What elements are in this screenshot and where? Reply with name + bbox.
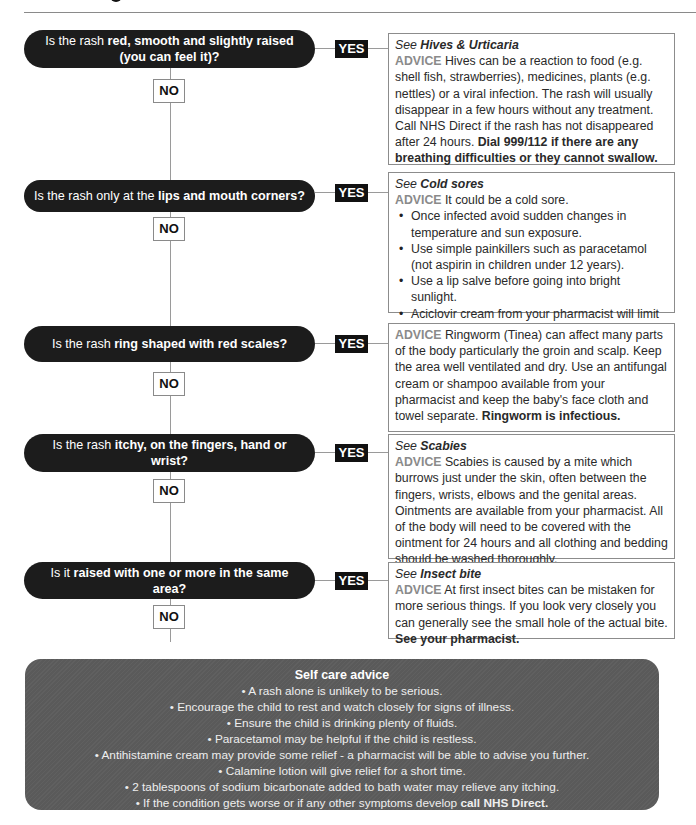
self-care-item: A rash alone is unlikely to be serious. — [25, 683, 659, 699]
yes-label: YES — [335, 444, 368, 462]
question-insect-bite: Is it raised with one or more in the sam… — [24, 562, 315, 599]
no-label: NO — [153, 79, 185, 103]
advice-text: ADVICE At first insect bites can be mist… — [395, 582, 668, 647]
no-label: NO — [153, 479, 185, 503]
question-text: Is the rash red, smooth and slightly rai… — [34, 33, 305, 65]
header-divider — [24, 12, 696, 13]
self-care-item: Paracetamol may be helpful if the child … — [25, 731, 659, 747]
advice-box-cold-sores: See Cold sores ADVICE It could be a cold… — [388, 172, 675, 313]
connector-advice — [368, 192, 388, 193]
no-label: NO — [153, 605, 185, 629]
connector-advice — [368, 48, 388, 49]
self-care-panel: Self care advice A rash alone is unlikel… — [25, 659, 659, 810]
see-reference: See Scabies — [395, 438, 668, 454]
see-reference: See Cold sores — [395, 176, 668, 192]
self-care-item: Antihistamine cream may provide some rel… — [25, 747, 659, 763]
yes-label: YES — [335, 335, 368, 353]
connector-advice — [368, 343, 388, 344]
advice-bullet: Use simple painkillers such as paracetam… — [411, 241, 668, 273]
self-care-item-nhs: If the condition gets worse or if any ot… — [25, 795, 659, 811]
no-label: NO — [153, 372, 185, 396]
self-care-item: 2 tablespoons of sodium bicarbonate adde… — [25, 779, 659, 795]
connector-advice — [368, 580, 388, 581]
question-text: Is the rash itchy, on the fingers, hand … — [34, 437, 305, 469]
question-text: Is the rash only at the lips and mouth c… — [34, 188, 305, 204]
see-reference: See Insect bite — [395, 566, 668, 582]
advice-text: ADVICE Ringworm (Tinea) can affect many … — [395, 327, 668, 424]
question-scabies: Is the rash itchy, on the fingers, hand … — [24, 434, 315, 472]
advice-bullet: Once infected avoid sudden changes in te… — [411, 208, 668, 240]
connector-advice — [368, 452, 388, 453]
advice-text: ADVICE Hives can be a reaction to food (… — [395, 53, 668, 166]
question-text: Is it raised with one or more in the sam… — [34, 565, 305, 597]
self-care-item: Encourage the child to rest and watch cl… — [25, 699, 659, 715]
question-hives: Is the rash red, smooth and slightly rai… — [24, 30, 315, 68]
see-reference: See Hives & Urticaria — [395, 37, 668, 53]
advice-box-ringworm: ADVICE Ringworm (Tinea) can affect many … — [388, 323, 675, 432]
self-care-item: Ensure the child is drinking plenty of f… — [25, 715, 659, 731]
advice-text: ADVICE Scabies is caused by a mite which… — [395, 454, 668, 567]
connector-yes — [315, 343, 335, 344]
connector-yes — [315, 580, 335, 581]
question-ringworm: Is the rash ring shaped with red scales? — [24, 326, 315, 362]
advice-box-hives: See Hives & Urticaria ADVICE Hives can b… — [388, 33, 675, 165]
self-care-item: Calamine lotion will give relief for a s… — [25, 763, 659, 779]
no-label: NO — [153, 217, 185, 241]
self-care-title: Self care advice — [25, 667, 659, 683]
connector-yes — [315, 48, 335, 49]
heading-fragment — [110, 0, 122, 2]
yes-label: YES — [335, 40, 368, 58]
yes-label: YES — [335, 572, 368, 590]
connector-yes — [315, 452, 335, 453]
question-cold-sores: Is the rash only at the lips and mouth c… — [24, 180, 315, 212]
question-text: Is the rash ring shaped with red scales? — [52, 336, 287, 352]
advice-text: ADVICE It could be a cold sore. — [395, 192, 668, 208]
advice-bullet: Use a lip salve before going into bright… — [411, 273, 668, 305]
connector-yes — [315, 192, 335, 193]
advice-box-insect-bite: See Insect bite ADVICE At first insect b… — [388, 562, 675, 639]
advice-bullet-list: Once infected avoid sudden changes in te… — [395, 208, 668, 338]
yes-label: YES — [335, 184, 368, 202]
advice-box-scabies: See Scabies ADVICE Scabies is caused by … — [388, 434, 675, 559]
